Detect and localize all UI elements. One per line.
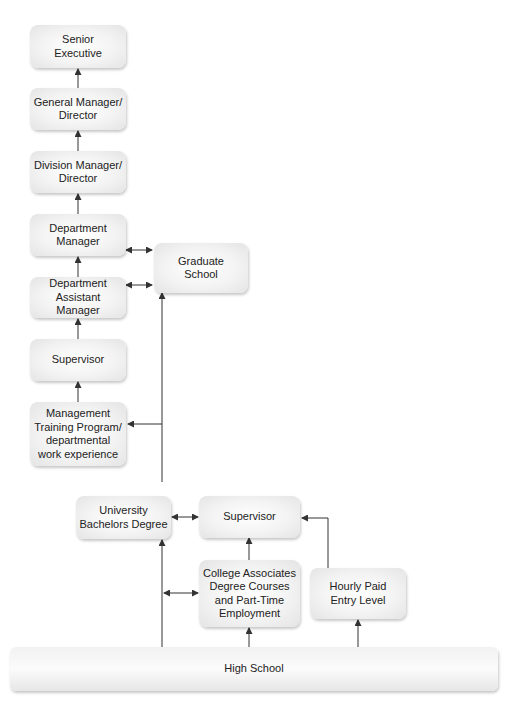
node-label: Supervisor — [52, 353, 105, 367]
node-label: General Manager/ Director — [34, 96, 123, 123]
node-label: College Associates Degree Courses and Pa… — [203, 567, 296, 621]
node-label: Graduate School — [178, 255, 224, 282]
node-label: High School — [224, 662, 283, 676]
node-senior-executive: Senior Executive — [30, 25, 126, 68]
node-high-school: High School — [10, 647, 498, 691]
node-label: University Bachelors Degree — [79, 504, 167, 531]
node-label: Senior Executive — [54, 33, 102, 60]
node-graduate-school: Graduate School — [154, 243, 248, 293]
node-label: Division Manager/ Director — [34, 159, 122, 186]
node-university-bachelors: University Bachelors Degree — [76, 496, 171, 539]
node-college-associates: College Associates Degree Courses and Pa… — [199, 560, 300, 627]
node-division-manager: Division Manager/ Director — [30, 151, 126, 193]
node-hourly-paid: Hourly Paid Entry Level — [310, 568, 406, 619]
node-supervisor-entry: Supervisor — [199, 496, 300, 538]
node-label: Hourly Paid Entry Level — [330, 580, 387, 607]
node-department-assistant-manager: Department Assistant Manager — [30, 277, 126, 318]
node-general-manager: General Manager/ Director — [30, 88, 126, 130]
node-label: Management Training Program/ departmenta… — [34, 407, 122, 461]
node-label: Department Assistant Manager — [33, 277, 123, 318]
node-department-manager: Department Manager — [30, 214, 126, 256]
node-management-training: Management Training Program/ departmenta… — [30, 402, 126, 466]
node-supervisor-management: Supervisor — [30, 339, 126, 381]
node-label: Supervisor — [223, 510, 276, 524]
node-label: Department Manager — [49, 222, 106, 249]
